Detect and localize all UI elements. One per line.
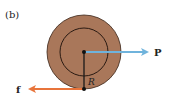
rolling-disk-diagram: (b) P f R xyxy=(0,0,179,100)
center-point xyxy=(82,50,86,54)
force-p-label: P xyxy=(154,47,162,58)
force-f-label: f xyxy=(16,84,21,95)
panel-label: (b) xyxy=(5,9,19,20)
radius-label: R xyxy=(87,77,95,87)
contact-point xyxy=(82,87,86,91)
